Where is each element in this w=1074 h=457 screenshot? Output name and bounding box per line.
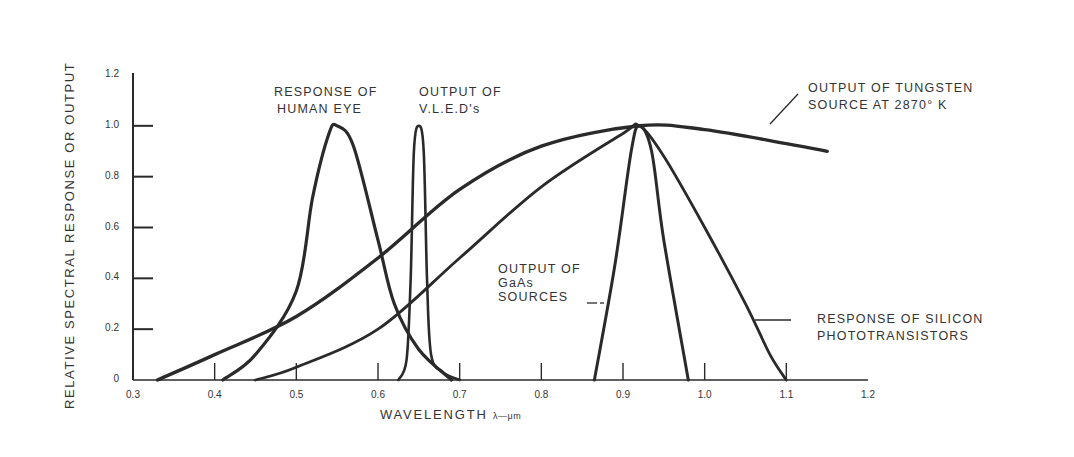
x-tick-label: 1.2 [853, 389, 883, 400]
x-axis-unit: λ—μm [493, 411, 521, 421]
gaas-label-line3: SOURCES [498, 290, 581, 304]
y-axis-title: RELATIVE SPECTRAL RESPONSE OR OUTPUT [62, 62, 77, 409]
human-eye-curve [223, 124, 452, 380]
vled-label: OUTPUT OF V.L.E.D's [419, 84, 502, 118]
y-tick-label: 0.4 [95, 271, 119, 282]
x-axis-title-text: WAVELENGTH [380, 407, 488, 422]
vled-curve [398, 126, 459, 380]
curves [158, 124, 828, 380]
y-tick-label: 1.2 [95, 68, 119, 79]
tungsten-label: OUTPUT OF TUNGSTEN SOURCE AT 2870° K [808, 80, 974, 114]
x-tick-label: 0.3 [118, 389, 148, 400]
human-eye-label: RESPONSE OF HUMAN EYE [274, 84, 378, 118]
vled-label-line1: OUTPUT OF [419, 84, 502, 101]
x-tick-label: 0.7 [445, 389, 475, 400]
silicon-label-line1: RESPONSE OF SILICON [817, 311, 984, 328]
tungsten-leader-line [770, 94, 798, 124]
x-tick-label: 1.1 [771, 389, 801, 400]
x-axis-title: WAVELENGTH λ—μm [380, 407, 521, 422]
human-eye-label-line1: RESPONSE OF [274, 84, 378, 101]
silicon-label: RESPONSE OF SILICON PHOTOTRANSISTORS [817, 311, 984, 345]
y-tick-label: 1.0 [95, 119, 119, 130]
gaas-label: OUTPUT OF GaAs SOURCES [498, 262, 581, 304]
human-eye-label-line2: HUMAN EYE [274, 101, 378, 118]
silicon-curve [256, 124, 787, 380]
y-tick-label: 0.8 [95, 170, 119, 181]
x-tick-label: 0.8 [526, 389, 556, 400]
gaas-label-line2: GaAs [498, 276, 581, 290]
x-tick-label: 0.9 [608, 389, 638, 400]
axes [133, 73, 868, 380]
y-tick-label: 0.6 [95, 221, 119, 232]
gaas-curve [594, 126, 688, 380]
vled-label-line2: V.L.E.D's [419, 101, 502, 118]
x-tick-label: 0.4 [200, 389, 230, 400]
y-tick-label: 0 [95, 373, 119, 384]
tungsten-label-line1: OUTPUT OF TUNGSTEN [808, 80, 974, 97]
silicon-label-line2: PHOTOTRANSISTORS [817, 328, 984, 345]
tungsten-curve [158, 125, 828, 380]
x-tick-label: 0.5 [281, 389, 311, 400]
tungsten-label-line2: SOURCE AT 2870° K [808, 97, 974, 114]
x-tick-label: 1.0 [690, 389, 720, 400]
gaas-label-line1: OUTPUT OF [498, 262, 581, 276]
y-tick-label: 0.2 [95, 322, 119, 333]
x-tick-label: 0.6 [363, 389, 393, 400]
